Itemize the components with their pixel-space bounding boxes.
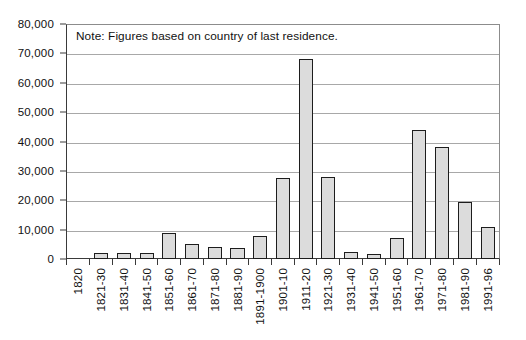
bar-slot [67,24,90,259]
x-axis-tick-mark [203,259,226,265]
x-axis-tick-mark [158,259,181,265]
bar[interactable] [458,202,472,259]
x-axis-tick-label: 1861-70 [186,268,198,312]
bar-slot [363,24,386,259]
y-axis-tick-label: 20,000 [18,194,54,206]
bar-slot [408,24,431,259]
x-axis-tick-mark [112,259,135,265]
x-axis-tick-mark [476,259,499,265]
x-axis-label-slot: 1921-30 [317,268,340,340]
bar-slot [226,24,249,259]
bar[interactable] [390,238,404,259]
x-axis-label-slot: 1891-1900 [249,268,272,340]
x-axis-label-slot: 1851-60 [158,268,181,340]
x-axis-tick-label: 1911-20 [300,268,312,311]
y-axis-tick-label: 70,000 [18,47,54,59]
bar-slot [453,24,476,259]
x-axis-tick-label: 1961-70 [413,268,425,312]
bar[interactable] [321,177,335,259]
bar[interactable] [344,252,358,259]
x-axis-label-slot: 1951-60 [385,268,408,340]
bar-slot [112,24,135,259]
x-axis-label-slot: 1821-30 [90,268,113,340]
bar[interactable] [276,178,290,259]
bar[interactable] [162,233,176,259]
x-axis-label-slot: 1841-50 [135,268,158,340]
x-axis-tick-label: 1941-50 [368,268,380,312]
bar[interactable] [208,247,222,259]
bar-chart: 010,00020,00030,00040,00050,00060,00070,… [0,0,526,340]
y-axis-tick-label: 40,000 [18,136,54,148]
x-axis-tick-mark [249,259,272,265]
x-axis-tick-label: 1991-96 [482,268,494,312]
x-axis-tick-label: 1901-10 [277,268,289,312]
bar[interactable] [412,130,426,259]
x-axis-tick-label: 1881-90 [232,268,244,312]
x-axis-tick-label: 1831-40 [118,268,130,312]
x-axis-ticks [67,259,499,265]
x-axis-label-slot: 1871-80 [203,268,226,340]
bar-slot [249,24,272,259]
bar-slot [476,24,499,259]
x-axis-tick-label: 1951-60 [391,268,403,312]
x-axis-tick-mark [408,259,431,265]
x-axis-tick-label: 1981-90 [459,268,471,312]
x-axis-label-slot: 1941-50 [363,268,386,340]
y-axis-tick-label: 50,000 [18,106,54,118]
bar[interactable] [299,59,313,259]
x-axis-label-slot: 1971-80 [431,268,454,340]
bar[interactable] [185,244,199,259]
x-axis-label-slot: 1961-70 [408,268,431,340]
bar-slot [203,24,226,259]
x-axis-tick-mark [135,259,158,265]
x-axis-label-slot: 1881-90 [226,268,249,340]
bar-slot [385,24,408,259]
bar[interactable] [230,248,244,259]
x-axis-tick-label: 1851-60 [163,268,175,312]
x-axis-tick-mark [317,259,340,265]
bar[interactable] [435,147,449,259]
x-axis-tick-label: 1871-80 [209,268,221,312]
x-axis-tick-label: 1891-1900 [254,268,266,325]
x-axis-tick-mark [363,259,386,265]
y-axis-tick-label: 10,000 [18,224,54,236]
x-axis-tick-mark [67,259,90,265]
x-axis-label-slot: 1931-40 [340,268,363,340]
x-axis-tick-mark [385,259,408,265]
x-axis-label-slot: 1991-96 [476,268,499,340]
bar-slot [181,24,204,259]
x-axis-tick-mark [226,259,249,265]
x-axis-tick-mark [272,259,295,265]
bar-slot [135,24,158,259]
x-axis-tick-mark [431,259,454,265]
y-axis-tick-label: 80,000 [18,18,54,30]
x-axis-tick-mark [90,259,113,265]
x-axis-label-slot: 1831-40 [112,268,135,340]
bar-slot [340,24,363,259]
bar-slot [272,24,295,259]
x-axis-tick-mark [453,259,476,265]
bar-slot [431,24,454,259]
y-axis: 010,00020,00030,00040,00050,00060,00070,… [0,0,66,283]
x-axis-label-slot: 1901-10 [272,268,295,340]
x-axis-labels: 18201821-301831-401841-501851-601861-701… [67,268,499,340]
x-axis-tick-label: 1921-30 [322,268,334,312]
bar-slot [294,24,317,259]
bar[interactable] [481,227,495,259]
x-axis-label-slot: 1981-90 [453,268,476,340]
x-axis-tick-label: 1931-40 [345,268,357,312]
bar-slot [317,24,340,259]
bar-slot [158,24,181,259]
x-axis-tick-label: 1971-80 [436,268,448,312]
bar[interactable] [253,236,267,259]
x-axis-tick-label: 1841-50 [141,268,153,312]
x-axis-tick-label: 1821-30 [95,268,107,312]
x-axis-tick-mark [340,259,363,265]
y-axis-tick-label: 60,000 [18,77,54,89]
y-axis-tick-label: 0 [47,253,54,265]
x-axis-tick-label: 1820 [72,268,84,294]
x-axis-label-slot: 1820 [67,268,90,340]
y-axis-tick-label: 30,000 [18,165,54,177]
bar-slot [90,24,113,259]
bar-series [67,24,499,259]
